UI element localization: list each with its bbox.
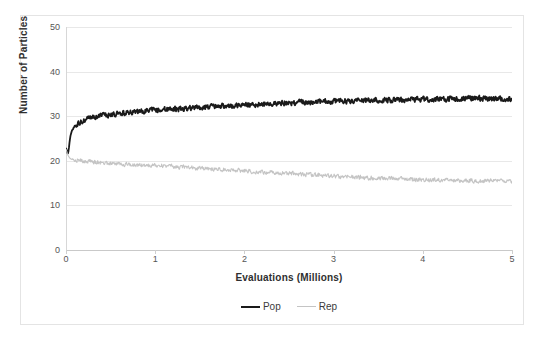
chart-container: 01020304050 012345 Number of Particles E… — [0, 0, 545, 342]
x-axis-tick-mark — [155, 250, 156, 254]
x-axis-tick-label: 0 — [56, 254, 76, 264]
x-axis-tick-mark — [244, 250, 245, 254]
x-axis-tick-label: 2 — [234, 254, 254, 264]
x-axis-tick-label: 3 — [324, 254, 344, 264]
series-line-pop — [66, 96, 512, 154]
chart-legend: PopRep — [66, 301, 512, 312]
y-axis-title: Number of Particles — [18, 0, 29, 114]
legend-swatch-icon — [297, 306, 316, 307]
legend-item-rep[interactable]: Rep — [297, 301, 337, 312]
x-axis-tick-mark — [423, 250, 424, 254]
plot-area — [66, 27, 512, 250]
legend-swatch-icon — [241, 306, 260, 308]
y-axis-tick-labels: 01020304050 — [36, 0, 60, 342]
x-axis-tick-label: 5 — [502, 254, 522, 264]
x-axis-tick-mark — [512, 250, 513, 254]
x-axis-tick-label: 4 — [413, 254, 433, 264]
y-axis-tick-label: 50 — [36, 22, 60, 32]
x-axis-line — [66, 250, 512, 251]
y-axis-tick-label: 10 — [36, 200, 60, 210]
legend-label: Pop — [263, 301, 281, 312]
x-axis-title: Evaluations (Millions) — [66, 272, 512, 283]
x-axis-tick-label: 1 — [145, 254, 165, 264]
y-axis-tick-label: 20 — [36, 156, 60, 166]
series-line-rep — [66, 149, 512, 183]
x-axis-tick-mark — [334, 250, 335, 254]
y-axis-tick-label: 30 — [36, 111, 60, 121]
series-lines — [66, 27, 512, 250]
legend-item-pop[interactable]: Pop — [241, 301, 281, 312]
x-axis-tick-mark — [66, 250, 67, 254]
y-axis-tick-label: 40 — [36, 67, 60, 77]
legend-label: Rep — [319, 301, 337, 312]
